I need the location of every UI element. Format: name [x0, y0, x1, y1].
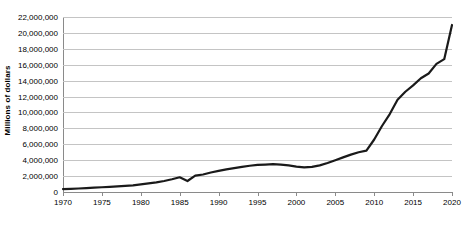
x-axis-tick-mark: [63, 192, 64, 196]
x-axis-tick-mark: [335, 192, 336, 196]
x-axis-tick-label: 2005: [326, 198, 344, 207]
y-axis-tick-label: 2,000,000: [22, 172, 58, 181]
x-axis-tick-labels: 1970197519801985199019952000200520102015…: [63, 192, 452, 222]
x-axis-tick-label: 2010: [365, 198, 383, 207]
x-axis-tick-label: 2020: [443, 198, 461, 207]
x-axis-tick-label: 1985: [171, 198, 189, 207]
y-axis-tick-label: 16,000,000: [18, 60, 58, 69]
x-axis-tick-label: 1995: [249, 198, 267, 207]
x-axis-tick-mark: [296, 192, 297, 196]
x-axis-tick-mark: [141, 192, 142, 196]
x-axis-tick-mark: [180, 192, 181, 196]
y-axis-tick-label: 20,000,000: [18, 28, 58, 37]
x-axis-tick-mark: [258, 192, 259, 196]
line-chart: Millions of dollars 02,000,0004,000,0006…: [0, 0, 471, 225]
y-axis-tick-label: 6,000,000: [22, 140, 58, 149]
x-axis-tick-label: 1990: [210, 198, 228, 207]
y-axis-tick-label: 0: [54, 188, 58, 197]
x-axis-tick-mark: [374, 192, 375, 196]
y-axis-title-label: Millions of dollars: [4, 65, 13, 135]
y-axis-tick-label: 4,000,000: [22, 156, 58, 165]
y-axis-tick-label: 22,000,000: [18, 13, 58, 22]
x-axis-tick-label: 1970: [54, 198, 72, 207]
y-axis-tick-label: 8,000,000: [22, 124, 58, 133]
x-axis-tick-label: 1980: [132, 198, 150, 207]
y-axis-tick-label: 18,000,000: [18, 44, 58, 53]
x-axis-tick-mark: [452, 192, 453, 196]
y-axis-tick-label: 10,000,000: [18, 108, 58, 117]
x-axis-tick-mark: [413, 192, 414, 196]
y-axis-tick-labels: 02,000,0004,000,0006,000,0008,000,00010,…: [16, 11, 61, 198]
y-axis-title: Millions of dollars: [0, 0, 16, 200]
data-series-line: [63, 17, 452, 192]
y-axis-tick-label: 14,000,000: [18, 76, 58, 85]
plot-area: [63, 17, 452, 192]
x-axis-tick-label: 2015: [404, 198, 422, 207]
x-axis-tick-label: 2000: [287, 198, 305, 207]
x-axis-tick-mark: [102, 192, 103, 196]
x-axis-tick-mark: [219, 192, 220, 196]
y-axis-tick-label: 12,000,000: [18, 92, 58, 101]
x-axis-tick-label: 1975: [93, 198, 111, 207]
